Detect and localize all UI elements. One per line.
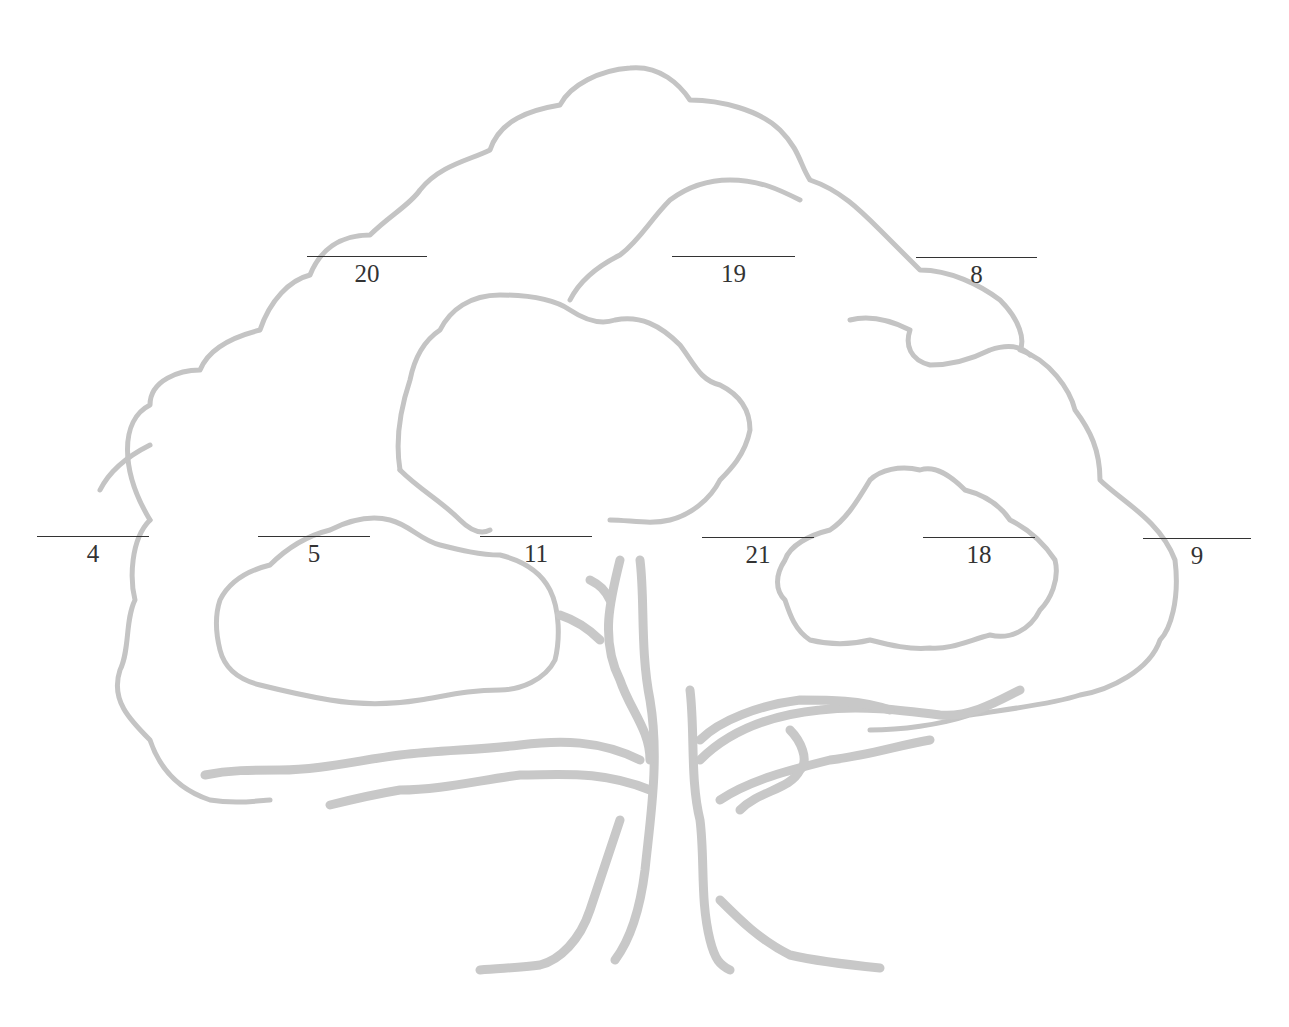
fill-in-line: [916, 257, 1037, 258]
fill-in-line: [480, 536, 592, 537]
fill-in-line: [258, 536, 370, 537]
slot-number: 5: [258, 540, 370, 568]
slot-number: 9: [1143, 542, 1251, 570]
fill-in-line: [923, 537, 1035, 538]
slot-number: 20: [307, 260, 427, 288]
slot-5[interactable]: 5: [258, 536, 370, 568]
slot-20[interactable]: 20: [307, 256, 427, 288]
slot-8[interactable]: 8: [916, 257, 1037, 289]
slot-number: 4: [37, 540, 149, 568]
slot-21[interactable]: 21: [702, 537, 814, 569]
slot-number: 8: [916, 261, 1037, 289]
slot-4[interactable]: 4: [37, 536, 149, 568]
slot-9[interactable]: 9: [1143, 538, 1251, 570]
tree-trunk-branches: [205, 560, 1020, 970]
slot-number: 19: [672, 260, 795, 288]
fill-in-line: [672, 256, 795, 257]
fill-in-line: [37, 536, 149, 537]
fill-in-line: [307, 256, 427, 257]
slot-18[interactable]: 18: [923, 537, 1035, 569]
tree-illustration: [0, 0, 1289, 1027]
fill-in-line: [702, 537, 814, 538]
slot-11[interactable]: 11: [480, 536, 592, 568]
slot-number: 11: [480, 540, 592, 568]
slot-19[interactable]: 19: [672, 256, 795, 288]
fill-in-line: [1143, 538, 1251, 539]
slot-number: 18: [923, 541, 1035, 569]
slot-number: 21: [702, 541, 814, 569]
